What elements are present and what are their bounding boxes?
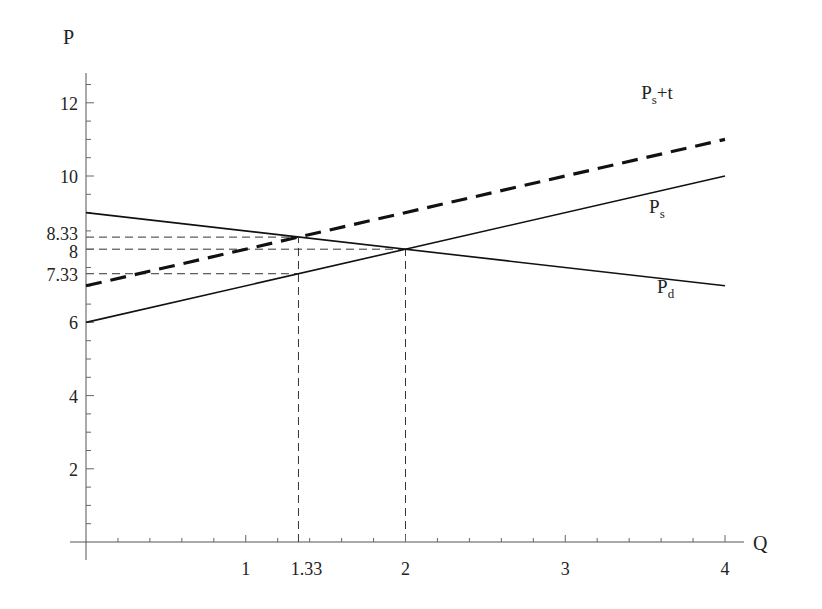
series-label: Ps+t bbox=[641, 82, 673, 107]
x-tick-label: 3 bbox=[561, 559, 570, 579]
supply-demand-tax-chart: 2467.3388.33101211.33234 Ps+tPsPd P Q bbox=[0, 0, 822, 609]
y-tick-label: 10 bbox=[60, 167, 78, 187]
y-tick-label: 7.33 bbox=[47, 265, 79, 285]
tick-labels: 2467.3388.33101211.33234 bbox=[47, 94, 730, 579]
x-tick-label: 1 bbox=[241, 559, 250, 579]
axes bbox=[70, 73, 744, 560]
y-tick-label: 8 bbox=[69, 242, 78, 262]
reference-lines bbox=[86, 237, 406, 542]
y-tick-label: 6 bbox=[69, 313, 78, 333]
series-label: Ps bbox=[649, 196, 665, 221]
y-tick-label: 8.33 bbox=[47, 224, 79, 244]
y-tick-label: 12 bbox=[60, 94, 78, 114]
x-axis-label: Q bbox=[753, 532, 768, 554]
y-tick-label: 4 bbox=[69, 387, 78, 407]
y-axis-label: P bbox=[63, 26, 74, 48]
y-tick-label: 2 bbox=[69, 460, 78, 480]
x-tick-label: 4 bbox=[721, 559, 730, 579]
x-tick-label: 2 bbox=[401, 559, 410, 579]
x-tick-label: 1.33 bbox=[291, 559, 323, 579]
